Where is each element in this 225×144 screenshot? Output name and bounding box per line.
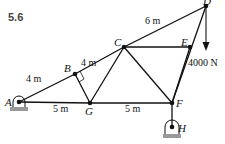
label-C: C (114, 36, 122, 48)
load-label: 4000 N (188, 57, 218, 68)
truss-diagram: 5.6 4000 N (0, 0, 225, 144)
member-CG (90, 47, 124, 103)
label-E: E (180, 36, 188, 48)
joint-F (170, 101, 175, 106)
dim-BC: 4 m (81, 57, 97, 68)
joint-E (188, 45, 193, 50)
problem-number: 5.6 (8, 11, 23, 23)
joint-H (170, 125, 175, 130)
label-H: H (177, 122, 187, 134)
label-A: A (4, 96, 12, 108)
label-D: D (202, 0, 211, 7)
joint-A (17, 100, 22, 105)
label-B: B (64, 62, 71, 74)
dim-AG: 5 m (53, 103, 69, 114)
joint-C (122, 45, 127, 50)
right-angle-marker (79, 71, 84, 82)
dim-CD: 6 m (145, 15, 161, 26)
member-BG (75, 74, 90, 103)
label-F: F (175, 97, 183, 109)
member-CF (124, 47, 172, 103)
joint-B (73, 72, 78, 77)
label-G: G (85, 105, 93, 117)
dim-AB: 4 m (26, 73, 42, 84)
dim-GF: 5 m (125, 103, 141, 114)
